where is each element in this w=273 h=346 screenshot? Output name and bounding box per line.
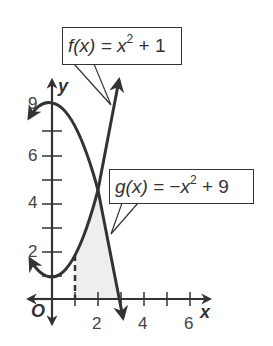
g-label-box: g(x) = −x2 + 9 bbox=[109, 169, 254, 204]
x-tick-label-6: 6 bbox=[184, 314, 193, 334]
x-axis-label: x bbox=[200, 302, 210, 323]
y-tick-label-2: 2 bbox=[28, 242, 37, 262]
f-callout-pointer bbox=[74, 64, 111, 105]
g-callout-pointer bbox=[111, 203, 138, 234]
y-tick-label-4: 4 bbox=[28, 193, 37, 213]
x-tick-label-4: 4 bbox=[138, 314, 147, 334]
y-axis-label: y bbox=[58, 76, 68, 97]
y-tick-label-6: 6 bbox=[28, 146, 37, 166]
f-label-text: f(x) = x2 + 1 bbox=[68, 34, 166, 57]
shaded-region bbox=[75, 190, 121, 299]
origin-label: O bbox=[31, 301, 45, 322]
y-tick-label-9: 9 bbox=[28, 94, 37, 114]
f-label-box: f(x) = x2 + 1 bbox=[62, 27, 182, 65]
g-label-text: g(x) = −x2 + 9 bbox=[115, 175, 229, 198]
x-tick-label-2: 2 bbox=[92, 314, 101, 334]
